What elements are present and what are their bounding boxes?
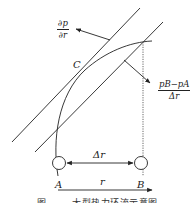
isobar-line-upper — [12, 8, 140, 142]
point-c-label: C — [73, 60, 81, 70]
point-a-label: A — [55, 180, 62, 190]
pressure-difference-denominator: Δr — [169, 91, 179, 101]
pressure-difference-numerator: pB−pA — [158, 80, 190, 91]
diagram-canvas — [0, 0, 195, 203]
pressure-difference-label: pB−pA Δr — [158, 80, 190, 100]
delta-r-label: Δr — [93, 150, 105, 160]
pressure-gradient-numerator: ∂p — [57, 19, 69, 30]
pressure-gradient-label: ∂p ∂r — [57, 19, 69, 39]
circle-b — [135, 157, 148, 170]
pressure-gradient-denominator: ∂r — [59, 30, 67, 40]
r-label: r — [100, 177, 105, 187]
circle-a — [53, 157, 66, 170]
pressure-difference-arrow — [124, 60, 150, 83]
gradient-arrow — [76, 29, 110, 40]
point-b-label: B — [137, 180, 144, 190]
figure-caption: 图 大型热力环流示意图 — [0, 196, 195, 203]
